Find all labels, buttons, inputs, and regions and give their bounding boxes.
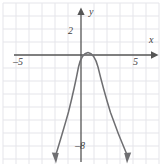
curve-right-arrow-icon [124,153,131,164]
y-axis-arrow-icon [77,8,84,16]
x-axis-arrow-icon [151,51,159,59]
parabola-curve [52,53,131,164]
tick-label-x-neg5: –5 [13,57,23,67]
graph-figure: 2 –5 5 –8 x y [0,0,163,167]
tick-label-y-neg8: –8 [75,141,85,151]
tick-label-x-5: 5 [133,57,138,67]
x-axis-label: x [149,35,153,45]
tick-label-y-2: 2 [68,26,73,36]
y-axis-label: y [89,7,93,17]
y-axis [77,8,84,163]
